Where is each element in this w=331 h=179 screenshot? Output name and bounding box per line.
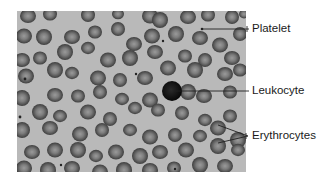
erythrocyte-cell [14,122,30,138]
label-leukocyte: Leukocyte [252,85,304,97]
erythrocyte-cell [72,126,88,141]
erythrocyte-cell [115,93,129,105]
platelet-dot [24,78,27,81]
erythrocyte-cell [212,37,228,52]
erythrocyte-cell [152,145,168,159]
erythrocyte-cell [175,106,189,120]
erythrocyte-cell [223,85,237,98]
erythrocyte-cell [18,68,34,83]
erythrocyte-cell [132,148,148,164]
erythrocyte-cell [217,159,233,173]
erythrocyte-cell [95,123,109,137]
platelet-dot [162,40,164,42]
erythrocyte-cell [88,25,102,38]
erythrocyte-cell [64,30,80,44]
erythrocyte-cell [71,89,85,102]
erythrocyte-cell [16,28,32,43]
erythrocyte-cell [210,138,226,154]
erythrocyte-cell [144,28,160,43]
erythrocyte-cell [57,44,73,60]
erythrocyte-cell [223,109,237,122]
erythrocyte-cell [111,22,125,36]
erythrocyte-cell [178,49,192,62]
erythrocyte-cell [231,144,245,156]
erythrocyte-cell [47,142,63,157]
erythrocyte-cell [126,37,142,51]
erythrocyte-cell [65,67,79,79]
erythrocyte-cell [128,102,142,114]
erythrocyte-cell [113,73,127,87]
erythrocyte-cell [198,114,212,126]
erythrocyte-cell [217,67,233,81]
erythrocyte-cell [167,161,181,174]
erythrocyte-cell [210,120,226,135]
erythrocyte-cell [147,45,163,59]
erythrocyte-cell [14,90,30,106]
erythrocyte-cell [192,157,208,173]
erythrocyte-cell [193,130,207,142]
erythrocyte-cell [33,51,47,64]
erythrocyte-cell [123,124,137,136]
erythrocyte-cell [81,42,95,54]
erythrocyte-cell [168,128,182,142]
erythrocyte-cell [53,110,67,122]
erythrocyte-cell [112,9,124,20]
erythrocyte-cell [32,104,48,120]
erythrocyte-cell [20,9,36,23]
erythrocyte-cell [239,10,249,19]
erythrocyte-cell [80,104,96,119]
erythrocyte-cell [42,121,58,135]
erythrocyte-cell [36,29,52,45]
blood-smear-figure: Platelet Leukocyte Erythrocytes [0,0,331,179]
erythrocyte-cell [160,60,176,75]
erythrocyte-cell [168,26,184,42]
erythrocyte-cell [108,144,124,159]
platelet-dot [135,73,137,75]
erythrocyte-cell [201,8,215,21]
erythrocyte-cell [24,145,40,159]
erythrocyte-cell [180,84,196,100]
erythrocyte-cell [47,88,63,102]
erythrocyte-cell [152,12,168,28]
erythrocyte-cell [192,31,208,45]
erythrocyte-cell [64,161,80,175]
platelet-dot [60,164,62,166]
erythrocyte-cell [92,164,108,179]
erythrocyte-cell [224,51,240,65]
erythrocyte-cell [187,62,203,78]
erythrocyte-cell [16,160,32,175]
erythrocyte-cell [93,85,107,99]
erythrocyte-cell [70,142,86,158]
label-platelet: Platelet [252,23,290,35]
erythrocyte-cell [137,71,153,85]
erythrocyte-cell [151,103,165,116]
platelet-dot [201,28,204,31]
platelet-dot [174,168,176,170]
erythrocyte-cell [142,163,158,177]
erythrocyte-cell [90,70,106,85]
erythrocyte-cell [43,7,57,20]
erythrocyte-cell [14,53,30,67]
label-erythrocytes: Erythrocytes [252,130,316,142]
erythrocyte-cell [142,129,158,144]
erythrocyte-cell [180,10,196,24]
erythrocyte-cell [89,150,103,162]
erythrocyte-cell [100,52,116,67]
erythrocyte-cell [178,142,194,157]
erythrocyte-cell [233,63,247,76]
erythrocyte-cell [40,162,56,178]
erythrocyte-cell [122,50,138,66]
erythrocyte-cell [116,162,132,178]
erythrocyte-cell [81,8,95,22]
platelet-dot [19,116,22,119]
erythrocyte-cell [225,10,239,24]
erythrocyte-cell [47,62,63,78]
